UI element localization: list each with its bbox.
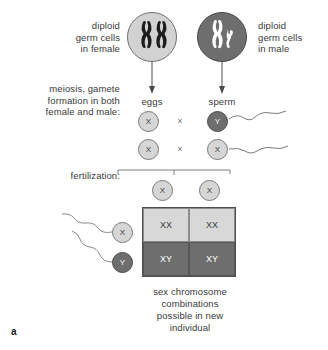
punnett-square: XX XX XY XY bbox=[142, 207, 236, 277]
arrow-male-to-sperm bbox=[219, 62, 225, 94]
grouping-bracket bbox=[118, 170, 230, 175]
egg-gamete-x-2: X bbox=[138, 139, 159, 160]
panel-letter: a bbox=[11, 326, 17, 337]
arrow-female-to-eggs bbox=[149, 62, 155, 94]
cross-symbol-1: × bbox=[174, 116, 186, 126]
punnett-cell-xx-1: XX bbox=[143, 208, 189, 242]
punnett-side-gamete-y: Y bbox=[112, 252, 133, 273]
sex-determination-diagram: diploid germ cells in female diploid ger… bbox=[0, 0, 328, 350]
punnett-side-gamete-x: X bbox=[112, 222, 133, 243]
punnett-top-gamete-2: X bbox=[199, 180, 220, 201]
label-diploid-germ-cells-female: diploid germ cells in female bbox=[18, 20, 120, 55]
germ-cell-male bbox=[197, 12, 247, 62]
label-diploid-germ-cells-male: diploid germ cells in male bbox=[258, 20, 328, 55]
label-sperm: sperm bbox=[196, 96, 248, 108]
punnett-cell-xy-1: XY bbox=[143, 242, 189, 276]
fertilizing-sperm-tail-y bbox=[72, 231, 112, 262]
label-meiosis-gamete-formation: meiosis, gamete formation in both female… bbox=[6, 83, 120, 118]
sperm-gamete-x: X bbox=[207, 139, 228, 160]
fertilizing-sperm-tail-x bbox=[62, 214, 112, 233]
germ-cell-female bbox=[127, 12, 177, 62]
figure-caption: sex chromosome combinations possible in … bbox=[120, 286, 260, 334]
sperm-gamete-y: Y bbox=[207, 111, 228, 132]
sperm-tail-x bbox=[229, 146, 288, 153]
egg-gamete-x-1: X bbox=[138, 111, 159, 132]
punnett-cell-xx-2: XX bbox=[189, 208, 235, 242]
label-fertilization: fertilization: bbox=[18, 170, 120, 182]
label-eggs: eggs bbox=[128, 96, 176, 108]
sperm-tail-y bbox=[229, 111, 286, 120]
punnett-top-gamete-1: X bbox=[152, 180, 173, 201]
cross-symbol-2: × bbox=[174, 144, 186, 154]
punnett-cell-xy-2: XY bbox=[189, 242, 235, 276]
